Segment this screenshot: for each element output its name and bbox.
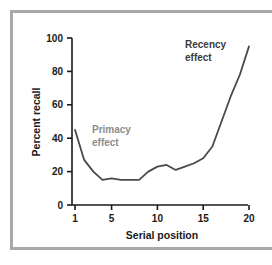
- x-tick-label-20: 20: [243, 213, 255, 224]
- recall-curve: [75, 46, 249, 180]
- recency-annotation-line2: effect: [185, 52, 212, 63]
- x-tick-label-15: 15: [198, 213, 210, 224]
- figure-container: 0 20 40 60 80 100 1 5 10 15 20 Serial po…: [0, 0, 272, 265]
- x-tick-label-10: 10: [152, 213, 164, 224]
- primacy-annotation-line2: effect: [92, 137, 119, 148]
- x-axis-title: Serial position: [126, 229, 198, 241]
- primacy-annotation: Primacy effect: [92, 124, 131, 148]
- y-tick-label-0: 0: [57, 200, 63, 211]
- recency-annotation-line1: Recency: [185, 39, 227, 50]
- y-tick-label-60: 60: [52, 99, 64, 110]
- recency-annotation: Recency effect: [185, 39, 227, 63]
- x-tick-label-1: 1: [72, 213, 78, 224]
- primacy-annotation-line1: Primacy: [92, 124, 131, 135]
- y-axis-title: Percent recall: [30, 87, 42, 156]
- x-tick-label-5: 5: [109, 213, 115, 224]
- y-tick-label-80: 80: [52, 66, 64, 77]
- y-tick-label-20: 20: [52, 166, 64, 177]
- serial-position-chart: 0 20 40 60 80 100 1 5 10 15 20 Serial po…: [0, 0, 272, 265]
- y-tick-label-100: 100: [46, 33, 63, 44]
- y-tick-label-40: 40: [52, 133, 64, 144]
